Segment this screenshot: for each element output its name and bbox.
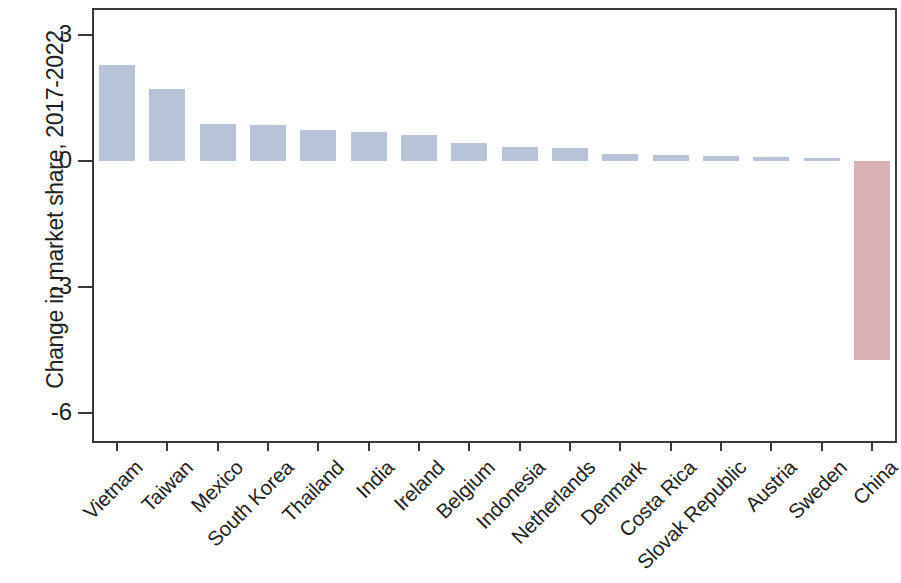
x-axis-label: India [352, 456, 398, 502]
x-axis-label: Belgium [432, 456, 498, 522]
x-tick-mark [468, 443, 470, 451]
y-tick-mark [78, 34, 92, 36]
x-axis-label: Taiwan [137, 456, 196, 515]
x-axis-label: Sweden [784, 456, 850, 522]
y-tick-label: 3 [12, 22, 72, 46]
x-tick-mark [418, 443, 420, 451]
y-tick-mark [78, 160, 92, 162]
x-tick-mark [217, 443, 219, 451]
x-axis-label: Denmark [576, 456, 649, 529]
x-tick-mark [317, 443, 319, 451]
bar [451, 143, 487, 161]
bar [703, 156, 739, 161]
y-tick-label: -6 [12, 400, 72, 424]
x-axis-label: Vietnam [79, 456, 146, 523]
bar [653, 155, 689, 161]
x-tick-mark [519, 443, 521, 451]
bar [250, 125, 286, 161]
bars-layer [92, 8, 897, 443]
x-axis-label: Netherlands [507, 456, 598, 547]
bar [602, 154, 638, 161]
bar [804, 158, 840, 161]
x-tick-mark [569, 443, 571, 451]
bar [401, 135, 437, 161]
x-tick-mark [619, 443, 621, 451]
x-axis-label: Ireland [390, 456, 448, 514]
bar [351, 132, 387, 161]
x-axis-label: Austria [741, 456, 800, 515]
x-tick-mark [770, 443, 772, 451]
x-axis-label: Slovak Republic [633, 456, 750, 573]
bar [552, 148, 588, 161]
x-tick-mark [871, 443, 873, 451]
bar [502, 147, 538, 161]
x-axis-label: Mexico [187, 456, 247, 516]
y-tick-mark [78, 412, 92, 414]
x-tick-mark [720, 443, 722, 451]
x-tick-mark [267, 443, 269, 451]
x-axis-label: Indonesia [472, 456, 548, 532]
x-axis-label: Costa Rica [615, 456, 699, 540]
bar [149, 89, 185, 161]
x-tick-mark [368, 443, 370, 451]
y-tick-mark [78, 286, 92, 288]
bar [854, 161, 890, 360]
bar [300, 130, 336, 161]
bar [200, 124, 236, 161]
x-tick-mark [116, 443, 118, 451]
x-tick-mark [821, 443, 823, 451]
x-tick-mark [166, 443, 168, 451]
x-tick-mark [670, 443, 672, 451]
y-tick-label: -3 [12, 274, 72, 298]
x-axis-label: China [849, 456, 901, 508]
x-axis-label: Thailand [278, 456, 347, 525]
x-axis-label: South Korea [203, 456, 297, 550]
bar [99, 65, 135, 161]
bar [753, 157, 789, 161]
y-axis-title: Change in market share, 2017-2022 [42, 0, 69, 425]
y-tick-label: 0 [12, 148, 72, 172]
